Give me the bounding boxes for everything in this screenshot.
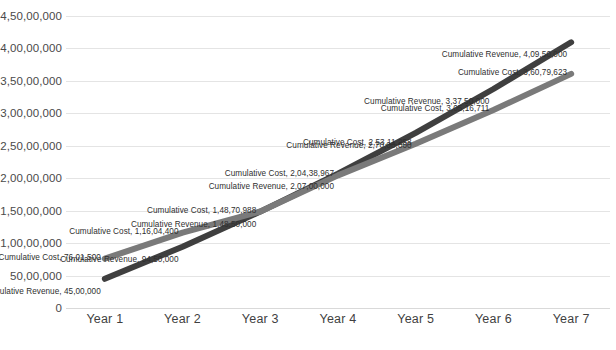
data-point-label: Cumulative Cost, 1,48,70,988 [147, 206, 256, 214]
series-lines [66, 16, 610, 308]
gridline [66, 308, 610, 309]
data-point-label: Cumulative Revenue, 45,00,000 [0, 288, 101, 296]
x-axis-tick-label: Year 6 [475, 312, 512, 326]
y-axis-labels: 050,00,0001,00,00,0001,50,00,0002,00,00,… [0, 16, 62, 308]
chart-title: CUMULATIVE REVENUE VS CUMULATIVE COST [0, 0, 616, 3]
x-axis-tick-label: Year 4 [320, 312, 357, 326]
cumulative-revenue-cost-chart: CUMULATIVE REVENUE VS CUMULATIVE COST 05… [0, 0, 616, 350]
x-axis-tick-label: Year 5 [397, 312, 434, 326]
data-point-label: Cumulative Cost, 2,53,11,258 [303, 139, 412, 147]
y-axis-tick-label: 1,00,00,000 [0, 237, 62, 249]
data-point-label: Cumulative Cost, 2,04,38,967 [225, 170, 334, 178]
y-axis-tick-label: 2,50,00,000 [0, 140, 62, 152]
y-axis-tick-label: 3,00,00,000 [0, 107, 62, 119]
x-axis-tick-label: Year 3 [242, 312, 279, 326]
x-axis-tick-label: Year 7 [553, 312, 590, 326]
y-axis-tick-label: 50,00,000 [10, 270, 62, 282]
x-axis-tick-label: Year 1 [86, 312, 123, 326]
y-axis-tick-label: 0 [56, 302, 63, 314]
x-axis-tick-label: Year 2 [164, 312, 201, 326]
data-point-label: Cumulative Cost, 3,60,79,623 [458, 69, 567, 77]
data-point-label: Cumulative Revenue, 4,09,50,000 [442, 51, 567, 59]
y-axis-tick-label: 2,00,00,000 [0, 172, 62, 184]
data-point-label: Cumulative Cost, 1,16,04,400 [69, 228, 178, 236]
y-axis-tick-label: 3,50,00,000 [0, 75, 62, 87]
data-point-label: Cumulative Revenue, 2,07,00,000 [209, 183, 334, 191]
data-point-label: Cumulative Cost, 3,05,16,711 [381, 105, 490, 113]
series-line [105, 42, 571, 279]
y-axis-tick-label: 4,00,00,000 [0, 42, 62, 54]
y-axis-tick-label: 1,50,00,000 [0, 205, 62, 217]
x-axis-labels: Year 1Year 2Year 3Year 4Year 5Year 6Year… [66, 312, 610, 342]
data-point-label: Cumulative Cost, 76,01,500 [0, 254, 101, 262]
y-axis-tick-label: 4,50,00,000 [0, 10, 62, 22]
